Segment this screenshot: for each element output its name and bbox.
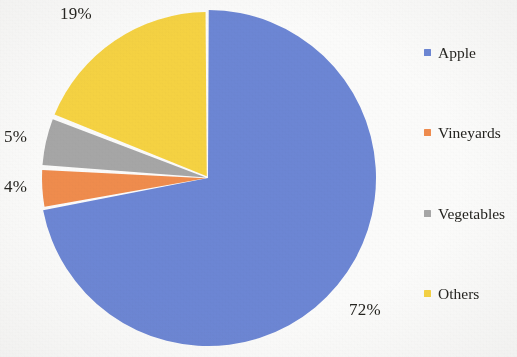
legend-label-vegetables: Vegetables bbox=[438, 206, 505, 222]
pie-chart-screenshot: 19% 5% 4% 72% Apple Vineyards Vegetables… bbox=[0, 0, 517, 357]
pie-chart-svg bbox=[0, 0, 400, 357]
legend-swatch-icon-vineyards bbox=[424, 129, 431, 136]
legend-item-vegetables[interactable]: Vegetables bbox=[424, 206, 505, 222]
legend-item-others[interactable]: Others bbox=[424, 286, 479, 302]
legend-label-others: Others bbox=[438, 286, 479, 302]
legend-swatch-icon-apple bbox=[424, 49, 431, 56]
legend-swatch-icon-vegetables bbox=[424, 210, 431, 217]
chart-legend: Apple Vineyards Vegetables Others bbox=[424, 0, 517, 357]
pie-chart bbox=[0, 0, 400, 357]
legend-swatch-icon-others bbox=[424, 290, 431, 297]
legend-label-vineyards: Vineyards bbox=[438, 125, 501, 141]
pie-label-vineyards: 4% bbox=[4, 177, 27, 197]
legend-item-apple[interactable]: Apple bbox=[424, 45, 476, 61]
pie-label-others: 19% bbox=[60, 4, 92, 24]
pie-label-apple: 72% bbox=[349, 300, 381, 320]
legend-label-apple: Apple bbox=[438, 45, 476, 61]
legend-item-vineyards[interactable]: Vineyards bbox=[424, 125, 501, 141]
pie-label-vegetables: 5% bbox=[4, 127, 27, 147]
